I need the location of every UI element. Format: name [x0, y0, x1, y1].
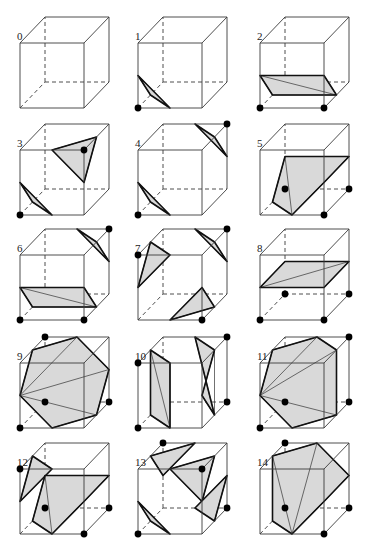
- marked-vertex: [81, 531, 88, 538]
- cube-edge: [20, 17, 45, 43]
- marked-vertex: [199, 466, 206, 473]
- cube-edge: [20, 124, 45, 150]
- marked-vertex: [106, 399, 113, 406]
- cube-edge: [324, 189, 349, 215]
- marked-vertex: [282, 399, 289, 406]
- cube-edge: [260, 17, 285, 43]
- marked-vertex: [224, 226, 231, 233]
- marked-vertex: [81, 317, 88, 324]
- marked-vertex: [17, 212, 24, 219]
- cube-edge: [84, 17, 109, 43]
- cube-edge: [138, 124, 163, 150]
- case-label: 10: [135, 350, 147, 362]
- marked-vertex: [135, 425, 142, 432]
- marked-vertex: [257, 425, 264, 432]
- cube-edge: [84, 124, 109, 150]
- cube-edge: [202, 229, 227, 255]
- isosurface-outline: [138, 183, 170, 216]
- hidden-edge: [260, 294, 285, 320]
- cube-case-14: 14: [257, 440, 352, 538]
- marked-vertex: [321, 317, 328, 324]
- cube-edge: [202, 124, 227, 150]
- case-label: 5: [257, 137, 263, 149]
- marked-vertex: [160, 440, 167, 447]
- cube-edge: [202, 189, 227, 215]
- marked-vertex: [282, 291, 289, 298]
- marked-vertex: [42, 334, 49, 341]
- marked-vertex: [135, 105, 142, 112]
- hidden-edge: [20, 82, 45, 108]
- cube-case-11: 11: [257, 334, 353, 432]
- cube-edge: [84, 508, 109, 534]
- marked-vertex: [346, 291, 353, 298]
- case-label: 3: [17, 137, 23, 149]
- cube-edge: [324, 508, 349, 534]
- marked-vertex: [135, 212, 142, 219]
- cube-case-13: 13: [135, 440, 231, 538]
- marked-vertex: [42, 505, 49, 512]
- marked-vertex: [346, 399, 353, 406]
- marked-vertex: [224, 399, 231, 406]
- isosurface-outline: [138, 76, 170, 109]
- case-label: 0: [17, 30, 23, 42]
- marching-cubes-figure: 01234567891011121314: [0, 0, 372, 550]
- case-label: 1: [135, 30, 141, 42]
- cube-edge: [260, 229, 285, 255]
- marked-vertex: [282, 440, 289, 447]
- marked-vertex: [81, 147, 88, 154]
- marked-vertex: [282, 186, 289, 193]
- cube-edge: [84, 189, 109, 215]
- case-label: 7: [135, 242, 141, 254]
- case-label: 6: [17, 242, 23, 254]
- cube-edge: [84, 82, 109, 108]
- marked-vertex: [321, 105, 328, 112]
- case-label: 11: [257, 350, 268, 362]
- marked-vertex: [135, 531, 142, 538]
- marked-vertex: [106, 505, 113, 512]
- marked-vertex: [346, 186, 353, 193]
- cube-case-8: 8: [257, 229, 353, 323]
- cube-case-5: 5: [257, 124, 352, 218]
- cube-case-10: 10: [135, 334, 231, 432]
- hidden-edge: [138, 294, 163, 320]
- isosurface-polygon: [170, 288, 215, 321]
- marked-vertex: [257, 105, 264, 112]
- marked-vertex: [224, 334, 231, 341]
- case-label: 4: [135, 137, 141, 149]
- cube-edge: [84, 443, 109, 469]
- marked-vertex: [224, 121, 231, 128]
- isosurface-outline: [20, 183, 52, 216]
- case-label: 2: [257, 30, 263, 42]
- cube-edge: [84, 229, 109, 255]
- case-label: 8: [257, 242, 263, 254]
- cube-case-7: 7: [135, 226, 231, 324]
- cube-case-6: 6: [17, 226, 113, 324]
- marked-vertex: [17, 317, 24, 324]
- isosurface-polygon: [138, 242, 170, 288]
- case-label: 13: [135, 456, 147, 468]
- cube-edge: [260, 124, 285, 150]
- isosurface-outline: [138, 502, 170, 535]
- cube-case-1: 1: [135, 17, 227, 111]
- cube-edge: [202, 82, 227, 108]
- case-label: 9: [17, 350, 23, 362]
- cube-case-4: 4: [135, 121, 231, 219]
- marked-vertex: [17, 425, 24, 432]
- marked-vertex: [42, 399, 49, 406]
- cube-edge: [324, 17, 349, 43]
- cube-edge: [138, 17, 163, 43]
- cube-edge: [324, 229, 349, 255]
- cube-case-0: 0: [17, 17, 109, 108]
- marked-vertex: [346, 334, 353, 341]
- cube-case-12: 12: [17, 443, 113, 537]
- marked-vertex: [224, 505, 231, 512]
- cube-edge: [324, 124, 349, 150]
- isosurface-polygon: [33, 476, 110, 535]
- cube-case-9: 9: [17, 334, 113, 432]
- marked-vertex: [106, 226, 113, 233]
- cube-edge: [202, 443, 227, 469]
- marked-vertex: [321, 212, 328, 219]
- case-label: 14: [257, 456, 269, 468]
- marked-vertex: [346, 505, 353, 512]
- cube-edge: [202, 17, 227, 43]
